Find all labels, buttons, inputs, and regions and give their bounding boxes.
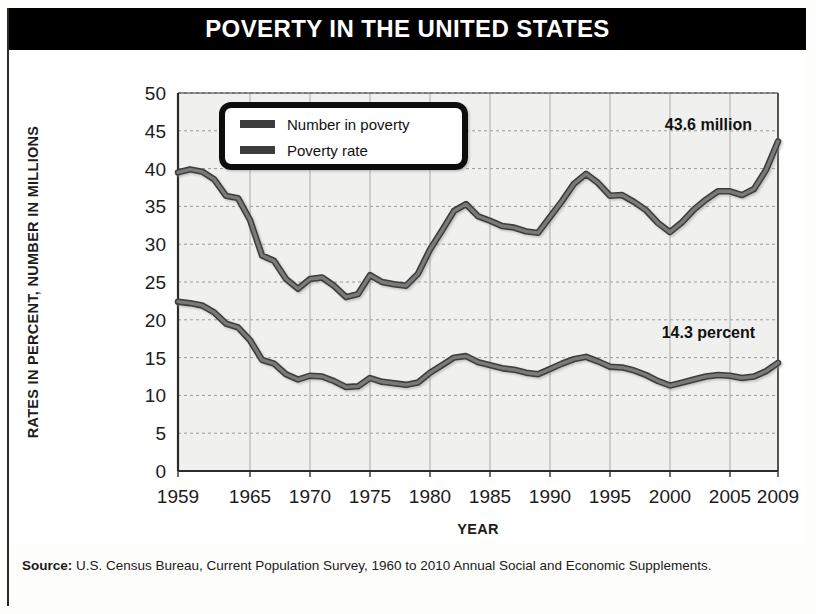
page-root: POVERTY IN THE UNITED STATES 05101520253… — [0, 0, 816, 614]
x-tick-label: 1990 — [529, 486, 571, 507]
x-tick-label: 1975 — [349, 486, 391, 507]
x-tick-label: 1965 — [229, 486, 271, 507]
y-tick-label: 40 — [145, 159, 166, 180]
y-axis-title: RATES IN PERCENT, NUMBER IN MILLIONS — [25, 126, 41, 439]
y-tick-label: 5 — [155, 423, 166, 444]
poverty-line-chart: 05101520253035404550 1959196519701975198… — [9, 50, 806, 545]
x-tick-label: 1959 — [157, 486, 199, 507]
chart-legend: Number in poverty Poverty rate — [222, 105, 465, 167]
y-tick-label: 10 — [145, 385, 166, 406]
y-tick-label: 35 — [145, 196, 166, 217]
x-axis-tick-labels: 1959196519701975198019851990199520002005… — [157, 486, 799, 507]
source-label: Source: — [22, 558, 72, 573]
y-tick-label: 25 — [145, 272, 166, 293]
x-tick-label: 1980 — [409, 486, 451, 507]
source-note: Source: U.S. Census Bureau, Current Popu… — [22, 558, 802, 573]
x-tick-label: 2005 — [709, 486, 751, 507]
x-tick-label: 2009 — [757, 486, 799, 507]
y-tick-label: 30 — [145, 234, 166, 255]
title-banner: POVERTY IN THE UNITED STATES — [9, 8, 806, 50]
y-tick-label: 15 — [145, 348, 166, 369]
legend-label-poverty-rate: Poverty rate — [287, 142, 368, 159]
legend-label-number-in-poverty: Number in poverty — [287, 116, 410, 133]
x-tick-label: 1995 — [589, 486, 631, 507]
source-text: U.S. Census Bureau, Current Population S… — [72, 558, 711, 573]
y-tick-label: 20 — [145, 310, 166, 331]
y-tick-label: 45 — [145, 121, 166, 142]
chart-annotation: 14.3 percent — [662, 324, 756, 341]
chart-container: 05101520253035404550 1959196519701975198… — [9, 50, 806, 545]
y-tick-label: 0 — [155, 461, 166, 482]
x-tick-label: 2000 — [649, 486, 691, 507]
x-tick-label: 1970 — [289, 486, 331, 507]
x-axis-title: YEAR — [457, 521, 499, 537]
chart-annotation: 43.6 million — [665, 116, 752, 133]
x-tick-label: 1985 — [469, 486, 511, 507]
page-title: POVERTY IN THE UNITED STATES — [205, 15, 610, 43]
y-tick-label: 50 — [145, 83, 166, 104]
y-axis-tick-labels: 05101520253035404550 — [145, 83, 166, 482]
